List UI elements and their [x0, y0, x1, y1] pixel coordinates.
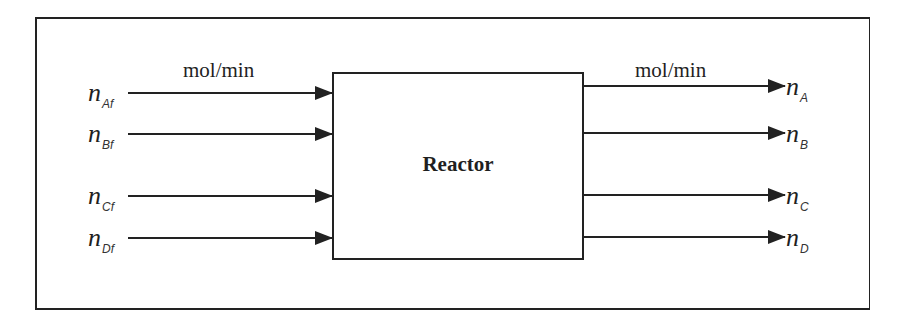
flow-symbol: n [786, 72, 799, 101]
flow-subscript: A [800, 91, 808, 105]
inlet-label-d: nDf [88, 225, 113, 251]
flow-subscript: Af [102, 97, 113, 111]
reactor-block: Reactor [332, 72, 584, 260]
flow-symbol: n [88, 78, 101, 107]
flow-symbol: n [786, 223, 799, 252]
outlet-label-a: nA [786, 74, 807, 100]
outlet-units-label: mol/min [635, 58, 706, 83]
outlet-label-b: nB [786, 121, 807, 147]
flow-symbol: n [786, 181, 799, 210]
outlet-label-d: nD [786, 225, 808, 251]
flow-symbol: n [88, 223, 101, 252]
flow-subscript: B [800, 138, 808, 152]
outlet-label-c: nC [786, 183, 808, 209]
flow-subscript: D [800, 242, 809, 256]
flow-subscript: Bf [102, 138, 113, 152]
flow-symbol: n [88, 181, 101, 210]
flow-symbol: n [88, 119, 101, 148]
reactor-label: Reactor [334, 152, 582, 177]
flow-subscript: C [800, 200, 809, 214]
flow-subscript: Df [102, 242, 114, 256]
inlet-label-b: nBf [88, 121, 112, 147]
inlet-label-c: nCf [88, 183, 113, 209]
flow-symbol: n [786, 119, 799, 148]
inlet-units-label: mol/min [183, 58, 254, 83]
flow-subscript: Cf [102, 200, 114, 214]
inlet-label-a: nAf [88, 80, 112, 106]
